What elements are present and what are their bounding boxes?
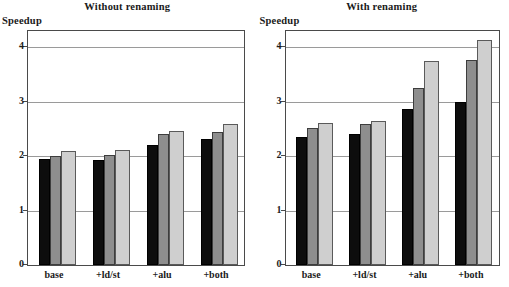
bar-group-both <box>201 31 238 265</box>
x-tick-label: +ld/st <box>81 270 135 280</box>
y-tick-label-2: 2 <box>4 150 24 160</box>
bar-group-alu <box>147 31 184 265</box>
bar-group-ldst <box>349 31 386 265</box>
speedup-bar-chart-figure: Without renaming Speedup 01234 base+ld/s… <box>0 0 509 287</box>
bar-group-alu <box>402 31 439 265</box>
x-tick-label: +both <box>189 270 243 280</box>
bar <box>93 160 104 265</box>
bar <box>201 139 212 265</box>
bar <box>424 61 439 265</box>
bar <box>104 155 115 265</box>
bar <box>50 156 61 265</box>
y-tick-label-0: 0 <box>262 259 282 269</box>
y-tick-label-0: 0 <box>4 259 24 269</box>
bar <box>413 88 424 265</box>
bar-group-base <box>296 31 333 265</box>
bar <box>318 123 333 265</box>
y-axis-title-left: Speedup <box>2 15 42 26</box>
bar <box>466 60 477 265</box>
chart-panel-without-renaming: Without renaming Speedup 01234 base+ld/s… <box>0 0 255 287</box>
bar <box>212 132 223 265</box>
plot-area-right <box>285 30 500 266</box>
bar <box>371 121 386 265</box>
bar <box>169 131 184 265</box>
y-tick-label-3: 3 <box>262 96 282 106</box>
y-tick-label-4: 4 <box>4 41 24 51</box>
bar <box>360 124 371 266</box>
bar <box>223 124 238 266</box>
y-tick-label-2: 2 <box>262 150 282 160</box>
y-axis-title-right: Speedup <box>260 15 300 26</box>
y-tick-label-1: 1 <box>4 205 24 215</box>
bar <box>477 40 492 265</box>
bar <box>115 150 130 265</box>
bar <box>39 159 50 265</box>
x-tick-label: +ld/st <box>338 270 391 280</box>
chart-panel-with-renaming: With renaming Speedup 01234 base+ld/st+a… <box>255 0 509 287</box>
bar <box>402 109 413 265</box>
x-tick-label: +alu <box>135 270 189 280</box>
panel-title-without-renaming: Without renaming <box>0 1 255 12</box>
panel-title-with-renaming: With renaming <box>255 1 509 12</box>
bar <box>61 151 76 265</box>
y-tick-label-4: 4 <box>262 41 282 51</box>
bar <box>307 128 318 265</box>
y-tick-label-1: 1 <box>262 205 282 215</box>
bars-layer-left <box>28 31 244 265</box>
bar <box>147 145 158 265</box>
plot-area-left <box>27 30 245 266</box>
x-tick-label: base <box>285 270 338 280</box>
x-tick-label: +both <box>444 270 497 280</box>
y-tick-label-3: 3 <box>4 96 24 106</box>
bars-layer-right <box>286 31 499 265</box>
bar-group-base <box>39 31 76 265</box>
bar-group-ldst <box>93 31 130 265</box>
x-tick-label: +alu <box>391 270 444 280</box>
bar-group-both <box>455 31 492 265</box>
bar <box>455 102 466 265</box>
bar <box>296 137 307 265</box>
bar <box>158 134 169 265</box>
x-tick-label: base <box>27 270 81 280</box>
bar <box>349 134 360 265</box>
